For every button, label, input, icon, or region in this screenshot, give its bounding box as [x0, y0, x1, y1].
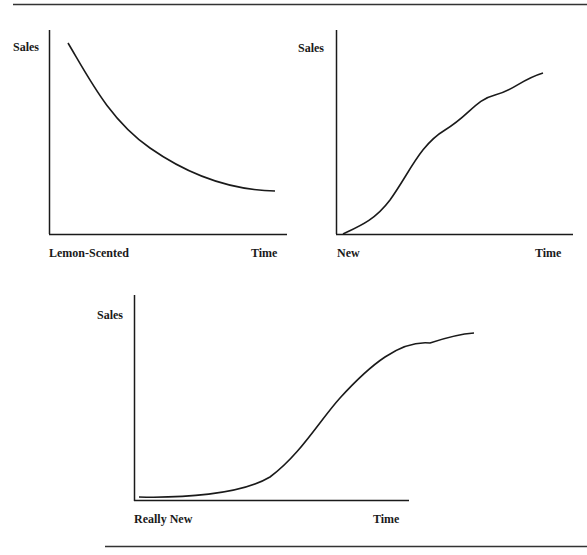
chart-new [336, 30, 573, 235]
sales-curve [139, 333, 474, 497]
y-axis-label: Sales [298, 41, 324, 55]
category-label: Lemon-Scented [49, 246, 129, 260]
chart-really-new [134, 295, 474, 501]
x-axis-label: Time [535, 246, 561, 260]
y-axis-label: Sales [13, 40, 39, 54]
chart-lemon-scented [49, 30, 287, 235]
category-label: Really New [134, 512, 192, 526]
sales-curve [343, 73, 543, 234]
category-label: New [337, 246, 360, 260]
x-axis-label: Time [251, 246, 277, 260]
figure-canvas [0, 0, 587, 555]
x-axis-label: Time [373, 512, 399, 526]
y-axis-label: Sales [97, 308, 123, 322]
sales-curve [68, 43, 275, 191]
